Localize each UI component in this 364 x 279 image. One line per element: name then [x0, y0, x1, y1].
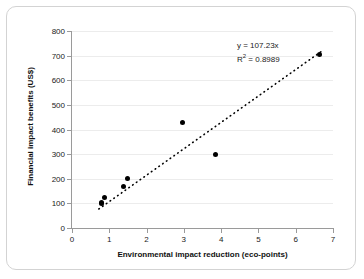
- y-tick-label: 200: [37, 175, 65, 184]
- x-tick-mark: [184, 229, 185, 233]
- y-tick-mark: [67, 56, 71, 57]
- y-tick-mark: [67, 228, 71, 229]
- x-tick-label: 2: [137, 235, 157, 244]
- y-tick-label: 800: [37, 27, 65, 36]
- x-tick-mark: [258, 229, 259, 233]
- y-tick-mark: [67, 105, 71, 106]
- y-tick-mark: [67, 154, 71, 155]
- x-axis-title: Environmental impact reduction (eco-poin…: [72, 250, 333, 259]
- y-tick-label: 100: [37, 199, 65, 208]
- y-tick-label: 400: [37, 126, 65, 135]
- y-tick-mark: [67, 31, 71, 32]
- y-axis-line: [71, 31, 72, 229]
- x-tick-label: 1: [99, 235, 119, 244]
- r-squared-number: = 0.8989: [246, 55, 280, 64]
- y-tick-label: 0: [37, 224, 65, 233]
- r-squared-value: R2 = 0.8989: [237, 51, 280, 65]
- y-tick-label: 500: [37, 101, 65, 110]
- chart-figure: 0100200300400500600700800 01234567 Envir…: [0, 0, 364, 279]
- x-tick-mark: [109, 229, 110, 233]
- plot-area: [72, 31, 333, 228]
- data-point: [121, 184, 126, 189]
- y-tick-label: 700: [37, 52, 65, 61]
- x-tick-label: 5: [248, 235, 268, 244]
- x-tick-mark: [296, 229, 297, 233]
- y-tick-mark: [67, 203, 71, 204]
- x-tick-label: 4: [211, 235, 231, 244]
- y-tick-label: 600: [37, 76, 65, 85]
- trendline: [72, 31, 333, 228]
- x-tick-mark: [147, 229, 148, 233]
- x-axis-line: [71, 228, 334, 229]
- x-tick-mark: [221, 229, 222, 233]
- y-tick-mark: [67, 179, 71, 180]
- y-axis-title: Financial impact benefits (US$): [26, 37, 35, 217]
- x-tick-label: 0: [62, 235, 82, 244]
- x-tick-mark: [72, 229, 73, 233]
- data-point: [180, 120, 185, 125]
- y-tick-mark: [67, 130, 71, 131]
- x-tick-label: 3: [174, 235, 194, 244]
- y-tick-mark: [67, 80, 71, 81]
- x-tick-mark: [333, 229, 334, 233]
- x-tick-label: 7: [323, 235, 343, 244]
- trendline-path: [99, 52, 321, 209]
- x-tick-label: 6: [286, 235, 306, 244]
- trendline-annotation: y = 107.23x R2 = 0.8989: [237, 40, 280, 65]
- y-axis-tick-labels: 0100200300400500600700800: [33, 0, 65, 279]
- y-tick-label: 300: [37, 150, 65, 159]
- trendline-equation: y = 107.23x: [237, 40, 280, 51]
